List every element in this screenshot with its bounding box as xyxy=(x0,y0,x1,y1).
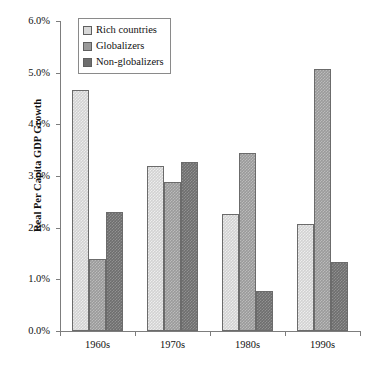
bar-1960s-non-globalizers xyxy=(106,212,123,331)
bar-1960s-globalizers xyxy=(89,259,106,331)
x-axis-tick xyxy=(60,331,61,336)
y-axis-tick-label: 4.0% xyxy=(6,119,50,129)
bar-1960s-rich-countries xyxy=(72,90,89,331)
bar-1990s-rich-countries xyxy=(297,224,314,331)
x-axis-category-label-1980s: 1980s xyxy=(210,339,285,350)
y-axis-tick-label: 6.0% xyxy=(6,16,50,26)
x-axis-tick xyxy=(210,331,211,336)
bar-1970s-globalizers xyxy=(164,182,181,331)
bar-1980s-globalizers xyxy=(239,153,256,331)
legend-item-globalizers: Globalizers xyxy=(83,38,164,54)
bar-1990s-globalizers xyxy=(314,69,331,331)
x-axis-category-label-1960s: 1960s xyxy=(60,339,135,350)
legend-label-globalizers: Globalizers xyxy=(96,41,144,51)
x-axis-category-label-1990s: 1990s xyxy=(285,339,360,350)
legend-swatch-icon-rich-countries xyxy=(83,26,92,35)
legend: Rich countries Globalizers Non-globalize… xyxy=(78,18,171,74)
legend-item-non-globalizers: Non-globalizers xyxy=(83,54,164,70)
bar-1980s-rich-countries xyxy=(222,214,239,331)
bar-1970s-non-globalizers xyxy=(181,162,198,331)
bar-1990s-non-globalizers xyxy=(331,262,348,331)
bar-chart: • • •• • • Real Per Capita GDP Growth 0.… xyxy=(0,0,370,367)
legend-swatch-icon-non-globalizers xyxy=(83,58,92,67)
y-axis-tick-label: 2.0% xyxy=(6,223,50,233)
x-axis-tick xyxy=(360,331,361,336)
x-axis-tick xyxy=(285,331,286,336)
bar-1970s-rich-countries xyxy=(147,166,164,331)
x-axis-tick xyxy=(135,331,136,336)
y-axis-tick-label: 3.0% xyxy=(6,171,50,181)
y-axis-tick-label: 1.0% xyxy=(6,274,50,284)
y-axis-tick-label: 5.0% xyxy=(6,68,50,78)
legend-label-non-globalizers: Non-globalizers xyxy=(96,57,164,67)
bar-1980s-non-globalizers xyxy=(256,291,273,331)
y-axis-tick-label: 0.0% xyxy=(6,326,50,336)
legend-item-rich-countries: Rich countries xyxy=(83,22,164,38)
x-axis-category-label-1970s: 1970s xyxy=(135,339,210,350)
legend-label-rich-countries: Rich countries xyxy=(96,25,157,35)
legend-swatch-icon-globalizers xyxy=(83,42,92,51)
